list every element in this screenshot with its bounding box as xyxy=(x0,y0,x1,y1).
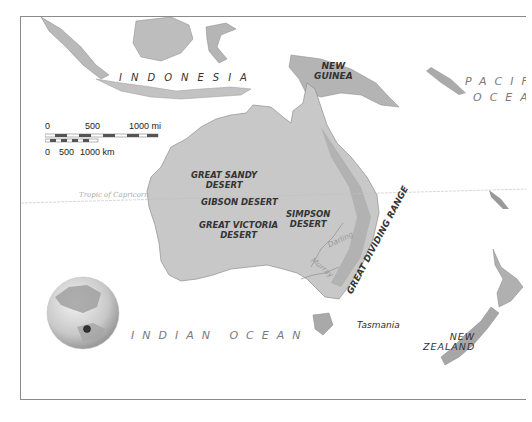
scale-km-1000: 1000 km xyxy=(80,147,115,157)
scale-bar-graphic xyxy=(45,133,165,145)
label-new-zealand: NEW ZEALAND xyxy=(423,332,475,352)
label-ocean-line2: OCEAN xyxy=(465,90,526,106)
label-tropic-of-capricorn: Tropic of Capricorn xyxy=(79,191,149,199)
label-simpson-line1: SIMPSON xyxy=(286,209,330,219)
scale-km-0: 0 xyxy=(45,147,50,157)
label-simpson-line2: DESERT xyxy=(286,219,330,229)
nz-north-island xyxy=(493,249,523,307)
tasmania-landmass xyxy=(313,313,333,335)
label-simpson-desert: SIMPSON DESERT xyxy=(286,209,330,229)
scale-mi-0: 0 xyxy=(45,121,50,131)
new-caledonia xyxy=(489,190,509,209)
map-frame: INDONESIA NEW GUINEA PACIFIC OCEAN INDIA… xyxy=(20,16,526,400)
label-tasmania: Tasmania xyxy=(357,320,400,330)
label-pacific-line1: PACIFIC xyxy=(465,74,526,90)
label-great-victoria-line1: GREAT VICTORIA xyxy=(199,220,278,230)
sulawesi-landmass xyxy=(206,23,236,63)
label-great-sandy-line1: GREAT SANDY xyxy=(191,170,257,180)
label-new-guinea: NEW GUINEA xyxy=(314,61,353,81)
label-gibson-desert: GIBSON DESERT xyxy=(201,197,278,207)
label-great-sandy-line2: DESERT xyxy=(191,180,257,190)
scale-mi-500: 500 xyxy=(85,121,100,131)
label-new-zealand-line2: ZEALAND xyxy=(423,342,475,352)
scale-mi-1000: 1000 mi xyxy=(129,121,161,131)
borneo-landmass xyxy=(133,17,193,61)
solomon-islands xyxy=(426,67,466,95)
label-great-sandy-desert: GREAT SANDY DESERT xyxy=(191,170,257,190)
location-marker xyxy=(84,326,91,333)
scale-km-500: 500 xyxy=(59,147,74,157)
label-new-guinea-line1: NEW xyxy=(314,61,353,71)
label-indian-ocean: INDIAN OCEAN xyxy=(131,329,308,342)
label-pacific-ocean: PACIFIC OCEAN xyxy=(465,74,526,106)
label-new-guinea-line2: GUINEA xyxy=(314,71,353,81)
locator-globe xyxy=(47,277,119,349)
label-great-victoria-desert: GREAT VICTORIA DESERT xyxy=(199,220,278,240)
sumatra-landmass xyxy=(41,17,109,79)
label-indonesia: INDONESIA xyxy=(119,72,256,83)
label-great-victoria-line2: DESERT xyxy=(199,230,278,240)
